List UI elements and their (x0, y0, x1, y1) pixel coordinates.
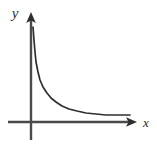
canvas-background (0, 0, 157, 148)
x-axis-label: x (142, 115, 149, 130)
decaying-curve-graph: y x (0, 0, 157, 148)
graph-canvas: y x (0, 0, 157, 148)
y-axis-label: y (10, 5, 19, 21)
